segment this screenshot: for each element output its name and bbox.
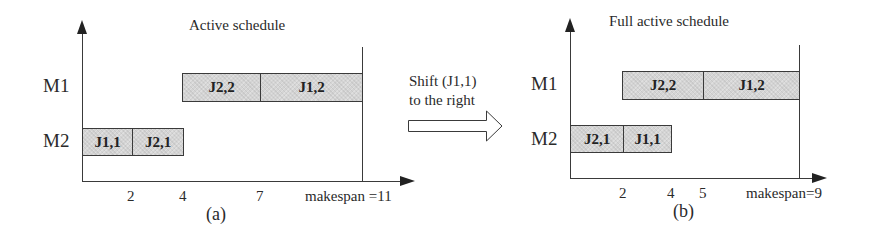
panel-b-m1-bar: J2,2 J1,2 <box>622 71 800 100</box>
panel-b-tick-5: 5 <box>699 185 707 202</box>
panel-a-y-axis <box>82 30 83 182</box>
panel-a-y-axis-arrow-icon <box>77 20 87 34</box>
panel-a-tick-4: 4 <box>179 188 187 205</box>
panel-a-title: Active schedule <box>189 17 285 34</box>
panel-b-m2-bar: J2,1 J1,1 <box>570 125 672 153</box>
panel-a-machine-m2: M2 <box>43 130 69 152</box>
panel-b-makespan-line <box>799 45 800 178</box>
panel-a-caption: (a) <box>206 204 226 225</box>
panel-a-x-axis <box>82 181 402 182</box>
panel-b-makespan-label: makespan=9 <box>746 185 822 202</box>
panel-a-tick-2: 2 <box>127 188 135 205</box>
panel-b-machine-m2: M2 <box>531 128 557 150</box>
panel-b-op-j1-1: J1,1 <box>623 126 671 152</box>
panel-a-op-j1-2: J1,2 <box>260 74 362 101</box>
panel-a-makespan-line <box>362 47 363 181</box>
panel-b-machine-m1: M1 <box>531 73 557 95</box>
panel-a-m2-bar: J1,1 J2,1 <box>82 128 184 156</box>
shift-label-line2: to the right <box>409 92 475 109</box>
hollow-right-arrow-icon <box>407 109 505 143</box>
panel-b-title: Full active schedule <box>609 13 729 30</box>
shift-label-line1: Shift (J1,1) <box>409 73 477 90</box>
panel-b-y-axis <box>570 28 571 179</box>
panel-a-machine-m1: M1 <box>43 75 69 97</box>
panel-a-x-axis-arrow-icon <box>400 176 415 186</box>
panel-a-makespan-label: makespan =11 <box>305 188 392 205</box>
panel-b-x-axis-arrow-icon <box>812 173 827 183</box>
panel-a-op-j2-1: J2,1 <box>132 129 183 155</box>
panel-a-op-j2-2: J2,2 <box>183 74 260 101</box>
panel-b-caption: (b) <box>673 201 694 222</box>
panel-a-op-j1-1: J1,1 <box>83 129 132 155</box>
panel-a-m1-bar: J2,2 J1,2 <box>182 73 363 102</box>
panel-b-op-j2-2: J2,2 <box>623 72 703 99</box>
panel-a-tick-7: 7 <box>256 188 264 205</box>
panel-b-y-axis-arrow-icon <box>565 18 575 32</box>
panel-b-tick-4: 4 <box>667 185 675 202</box>
panel-b-tick-2: 2 <box>619 185 627 202</box>
panel-b-op-j1-2: J1,2 <box>703 72 799 99</box>
panel-b-op-j2-1: J2,1 <box>571 126 623 152</box>
panel-b-x-axis <box>570 178 814 179</box>
